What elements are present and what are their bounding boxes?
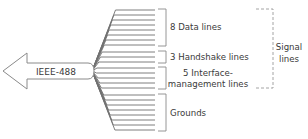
interface-lines-bracket	[158, 67, 166, 89]
data-lines-label: 8 Data lines	[170, 22, 222, 32]
interface-lines-label-1: 5 Interface-	[183, 68, 233, 78]
grounds-label: Grounds	[170, 108, 207, 118]
bus-wire	[92, 62, 155, 71]
bus-wire	[92, 68, 155, 71]
ieee-488-bus-diagram: IEEE-488 8 Data lines 3 Handshake lines …	[0, 0, 308, 139]
signal-lines-label-1: Signal	[276, 42, 302, 52]
bus-wire	[92, 71, 155, 125]
bus-wire	[92, 71, 155, 130]
bus-wire	[92, 15, 155, 71]
data-lines-bracket	[158, 9, 166, 46]
interface-lines-label-2: management lines	[168, 79, 249, 89]
bus-wire	[92, 71, 155, 88]
signal-lines-label-2: lines	[279, 54, 300, 64]
handshake-lines-label: 3 Handshake lines	[170, 52, 249, 62]
signal-lines-dashed-bracket	[256, 9, 273, 88]
bus-wire	[92, 57, 155, 71]
group-brackets	[158, 9, 166, 131]
bus-wire	[92, 71, 155, 78]
grounds-bracket	[158, 94, 166, 131]
handshake-lines-bracket	[158, 51, 166, 63]
connector-label: IEEE-488	[36, 67, 76, 77]
bus-wire-fan	[92, 10, 155, 130]
bus-wire	[92, 71, 155, 73]
